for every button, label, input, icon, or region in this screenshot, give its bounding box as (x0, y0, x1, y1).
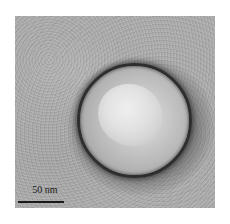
scale-bar (18, 201, 64, 203)
electron-micrograph: 50 nm (15, 16, 215, 208)
scale-bar-label: 50 nm (25, 184, 65, 196)
particle-core (98, 84, 162, 146)
